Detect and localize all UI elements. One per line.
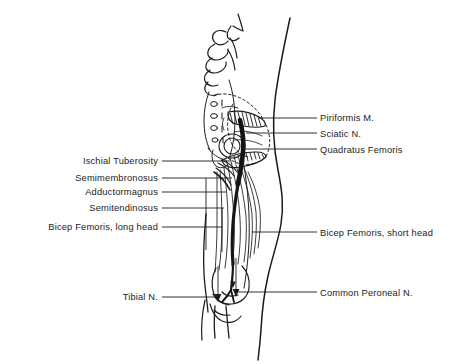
hamstring-origin-tendons [214,160,237,190]
label-bicep-femoris-long-head: Bicep Femoris, long head [0,222,158,233]
gemelli-muscles [234,131,262,145]
label-semimembronosus: Semimembronosus [0,173,158,184]
label-tibial-nerve: Tibial N. [0,292,158,303]
calf-outline [202,300,205,340]
label-ischial-tuberosity: Ischial Tuberosity [0,156,158,167]
label-sciatic-nerve: Sciatic N. [320,129,361,140]
label-quadratus-femoris: Quadratus Femoris [320,145,403,156]
label-bicep-femoris-short-head: Bicep Femoris, short head [320,228,433,239]
body-outline-posterior [258,18,290,360]
anatomy-figure: Piriformis M. Sciatic N. Quadratus Femor… [0,0,462,364]
label-adductormagnus: Adductormagnus [0,187,158,198]
label-common-peroneal-nerve: Common Peroneal N. [320,288,413,299]
vertebral-spinous-processes [204,14,243,95]
label-piriformis: Piriformis M. [320,113,374,124]
leg-outline-medial [204,214,208,312]
label-semitendinosus: Semitendinosus [0,203,158,214]
